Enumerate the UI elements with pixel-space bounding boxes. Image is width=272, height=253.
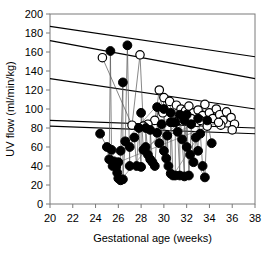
y-tick-label: 160 <box>25 46 43 58</box>
x-tick-label: 34 <box>203 212 215 224</box>
data-point-filled <box>137 108 146 117</box>
data-point-filled <box>194 146 203 155</box>
data-point-open <box>228 126 236 134</box>
data-point-filled <box>107 145 116 154</box>
x-tick-label: 36 <box>226 212 238 224</box>
data-point-filled <box>203 116 212 125</box>
data-point-filled <box>96 129 105 138</box>
y-tick-label: 20 <box>31 179 43 191</box>
plot-svg: 020406080100120140160180200 202224262830… <box>0 0 272 253</box>
data-point-filled <box>207 139 216 148</box>
data-point-filled <box>166 108 175 117</box>
data-point-open <box>98 54 106 62</box>
x-tick-label: 24 <box>89 212 101 224</box>
y-tick-label: 100 <box>25 103 43 115</box>
data-point-open <box>136 51 144 59</box>
x-tick-label: 20 <box>44 212 56 224</box>
y-axis-ticks: 020406080100120140160180200 <box>25 8 50 210</box>
data-point-filled <box>201 173 210 182</box>
data-point-filled <box>146 125 155 134</box>
x-tick-label: 22 <box>67 212 79 224</box>
y-axis-title: UV flow (ml/min/kg) <box>4 61 16 156</box>
x-tick-label: 38 <box>249 212 261 224</box>
data-point-filled <box>182 110 191 119</box>
data-point-filled <box>125 143 134 152</box>
data-point-filled <box>130 133 139 142</box>
data-point-filled <box>150 162 159 171</box>
data-point-filled <box>194 114 203 123</box>
data-point-filled <box>123 41 132 50</box>
x-axis-ticks: 20222426283032343638 <box>44 204 261 224</box>
y-tick-label: 40 <box>31 160 43 172</box>
data-point-filled <box>119 78 128 87</box>
data-point-open <box>214 118 222 126</box>
x-axis-title: Gestational age (weeks) <box>93 232 212 244</box>
y-tick-label: 140 <box>25 65 43 77</box>
data-point-filled <box>116 146 125 155</box>
y-tick-label: 80 <box>31 122 43 134</box>
data-point-filled <box>106 47 115 56</box>
x-tick-label: 26 <box>112 212 124 224</box>
data-point-filled <box>189 158 198 167</box>
data-point-open <box>201 100 209 108</box>
data-point-filled <box>157 120 166 129</box>
data-point-filled <box>153 103 162 112</box>
y-tick-label: 120 <box>25 84 43 96</box>
y-tick-label: 0 <box>37 198 43 210</box>
data-point-filled <box>185 171 194 180</box>
x-tick-label: 32 <box>181 212 193 224</box>
data-point-filled <box>137 163 146 172</box>
scatter-chart: 020406080100120140160180200 202224262830… <box>0 0 272 253</box>
x-tick-label: 28 <box>135 212 147 224</box>
data-point-filled <box>163 131 172 140</box>
y-tick-label: 180 <box>25 27 43 39</box>
y-tick-label: 60 <box>31 141 43 153</box>
data-point-filled <box>114 158 123 167</box>
x-tick-label: 30 <box>158 212 170 224</box>
y-tick-label: 200 <box>25 8 43 20</box>
data-point-filled <box>196 129 205 138</box>
data-point-open <box>155 86 163 94</box>
data-point-filled <box>198 162 207 171</box>
data-point-filled <box>119 175 128 184</box>
